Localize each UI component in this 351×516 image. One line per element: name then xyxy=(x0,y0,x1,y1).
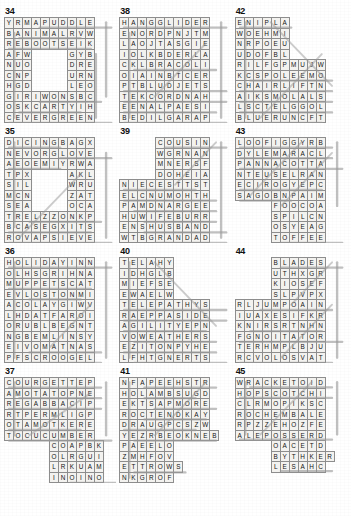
puzzle-34: 34YRMAPUDDLEBANIMALRVWREBOOTSEIKAFWGYBNU… xyxy=(4,6,116,123)
grid-cell: P xyxy=(32,279,41,290)
grid-cell: F xyxy=(307,420,316,431)
grid-cell: A xyxy=(129,18,138,29)
grid-row: WGRNAN xyxy=(120,148,219,159)
grid-row: BEDILGARAP xyxy=(120,112,219,123)
grid-cell-empty xyxy=(174,258,183,269)
grid-cell: C xyxy=(156,138,165,149)
grid-cell: J xyxy=(307,342,316,353)
grid-cell: O xyxy=(271,222,280,233)
grid-cell: W xyxy=(235,378,244,389)
grid-cell: V xyxy=(165,451,174,462)
grid-cell: O xyxy=(280,352,289,363)
grid-cell-empty xyxy=(325,232,334,243)
grid-cell-empty xyxy=(32,201,41,212)
grid-cell: P xyxy=(280,399,289,410)
grid-row: RILFGPMUJW xyxy=(235,60,334,71)
grid-cell-empty xyxy=(253,289,262,300)
grid-row: RAEPPASIDE xyxy=(120,310,219,321)
grid-cell: E xyxy=(183,102,192,113)
grid-row: OSKCARTYIH xyxy=(5,102,104,113)
grid-cell-empty xyxy=(210,300,219,311)
grid-cell: C xyxy=(120,60,129,71)
grid-cell: A xyxy=(138,378,147,389)
grid-cell: A xyxy=(147,102,156,113)
grid-cell: I xyxy=(68,300,77,311)
grid-cell: N xyxy=(86,112,95,123)
grid-cell: R xyxy=(271,112,280,123)
grid-cell: E xyxy=(201,310,210,321)
grid-cell: S xyxy=(201,352,210,363)
grid-cell: Z xyxy=(50,211,59,222)
grid-cell: O xyxy=(5,102,14,113)
grid-cell: O xyxy=(129,49,138,60)
grid-cell: E xyxy=(138,279,147,290)
grid-cell: O xyxy=(262,331,271,342)
grid-cell: R xyxy=(165,91,174,102)
grid-cell: R xyxy=(59,462,68,473)
grid-cell: K xyxy=(183,409,192,420)
grid-cell: S xyxy=(289,462,298,473)
grid-cell: H xyxy=(68,268,77,279)
grid-cell: N xyxy=(253,331,262,342)
grid-cell-empty xyxy=(95,289,104,300)
grid-cell: I xyxy=(86,289,95,300)
grid-cell-empty xyxy=(32,60,41,71)
grid-row: ROVAPSIEVE xyxy=(5,232,104,243)
grid-row: ROCTENDKAY xyxy=(120,409,219,420)
grid-cell: I xyxy=(156,321,165,332)
grid-cell: C xyxy=(23,138,32,149)
grid-cell: A xyxy=(23,222,32,233)
grid-cell: I xyxy=(32,138,41,149)
grid-cell: O xyxy=(244,388,253,399)
grid-cell: M xyxy=(32,420,41,431)
grid-cell-empty xyxy=(192,289,201,300)
grid-cell: R xyxy=(14,18,23,29)
grid-cell: M xyxy=(262,399,271,410)
grid-cell: N xyxy=(244,321,253,332)
grid-cell-empty xyxy=(316,28,325,39)
grid-cell: I xyxy=(14,342,23,353)
grid-cell: C xyxy=(41,430,50,441)
grid-cell: E xyxy=(156,180,165,191)
grid-cell: L xyxy=(138,258,147,269)
grid-cell: A xyxy=(183,222,192,233)
grid-cell-empty xyxy=(59,180,68,191)
grid-cell: O xyxy=(289,279,298,290)
grid-cell: H xyxy=(201,190,210,201)
grid-cell: E xyxy=(201,430,210,441)
grid-cell: E xyxy=(120,222,129,233)
grid-cell: E xyxy=(14,159,23,170)
grid-cell: A xyxy=(280,18,289,29)
grid-cell: T xyxy=(280,268,289,279)
grid-cell-empty xyxy=(325,268,334,279)
grid-cell: R xyxy=(120,310,129,321)
grid-cell: R xyxy=(174,201,183,212)
grid-cell-empty xyxy=(95,310,104,321)
grid-cell: V xyxy=(23,112,32,123)
grid-cell: N xyxy=(316,169,325,180)
grid-cell: U xyxy=(50,430,59,441)
grid-cell: S xyxy=(183,378,192,389)
grid-cell: A xyxy=(68,441,77,452)
grid-cell: R xyxy=(5,399,14,410)
grid-cell: O xyxy=(5,321,14,332)
grid-cell-empty xyxy=(14,451,23,462)
grid-cell: O xyxy=(32,342,41,353)
grid-cell-empty xyxy=(325,81,334,92)
grid-cell: D xyxy=(174,91,183,102)
grid-cell: H xyxy=(174,378,183,389)
grid-cell: A xyxy=(32,18,41,29)
grid-cell: E xyxy=(129,112,138,123)
grid-cell-empty xyxy=(210,399,219,410)
grid-cell: R xyxy=(59,112,68,123)
grid-cell-empty xyxy=(325,201,334,212)
grid-cell: B xyxy=(50,321,59,332)
grid-cell: A xyxy=(192,148,201,159)
grid-row: EENALPAESI xyxy=(120,102,219,113)
grid-cell-empty xyxy=(298,49,307,60)
grid-cell: P xyxy=(77,441,86,452)
grid-cell: H xyxy=(307,462,316,473)
grid-cell-empty xyxy=(41,472,50,483)
grid-cell: E xyxy=(23,211,32,222)
grid-cell-empty xyxy=(183,441,192,452)
